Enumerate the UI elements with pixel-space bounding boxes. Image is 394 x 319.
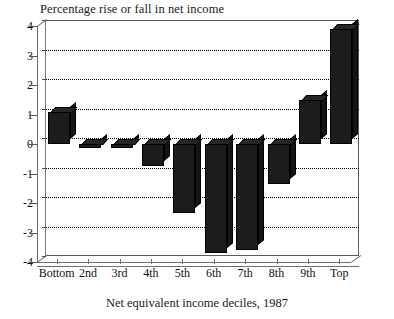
bar-side-face [352, 19, 358, 139]
y-axis-tick-mark-inner [42, 256, 46, 257]
bar-side-face [258, 134, 264, 245]
x-axis-tick-mark [339, 259, 340, 264]
y-axis-tick-mark [29, 262, 37, 263]
bar-front-face [79, 144, 101, 148]
y-axis-tick-mark-inner [42, 109, 46, 110]
bar-front-face [173, 144, 195, 213]
bar-front-face [48, 112, 70, 144]
bar-front-face [142, 144, 164, 166]
x-axis-tick-mark [277, 259, 278, 264]
y-axis-tick-mark [29, 174, 37, 175]
x-axis-tick-mark [120, 259, 121, 264]
gridline [45, 79, 359, 80]
y-axis-tick-mark-inner [42, 197, 46, 198]
plot-area [37, 26, 359, 262]
chart-title: Percentage rise or fall in net income [40, 2, 224, 17]
y-axis-tick-mark [29, 85, 37, 86]
bar-front-face [111, 144, 133, 148]
y-axis-tick-mark [29, 203, 37, 204]
x-axis-tick-mark [308, 259, 309, 264]
y-axis-tick-mark [29, 26, 37, 27]
y-axis-tick-mark [29, 56, 37, 57]
axis-depth-edge-bottom-right [351, 255, 361, 263]
y-axis-tick-mark [29, 115, 37, 116]
bar-front-face [299, 100, 321, 144]
y-axis-line [37, 26, 38, 262]
bar-side-face [227, 134, 233, 248]
chart-container: Percentage rise or fall in net income 43… [0, 0, 394, 319]
y-axis-tick-mark [29, 233, 37, 234]
bar-side-face [195, 134, 201, 208]
gridline [45, 197, 359, 198]
x-axis-tick-mark [151, 259, 152, 264]
x-axis-tick-mark [214, 259, 215, 264]
x-axis-tick-mark [88, 259, 89, 264]
x-axis-tick-mark [57, 259, 58, 264]
y-axis-tick-mark-inner [42, 227, 46, 228]
x-axis-tick-label: Top [309, 266, 369, 281]
bar-front-face [330, 29, 352, 144]
y-axis-tick-mark-inner [42, 50, 46, 51]
bar-front-face [205, 144, 227, 253]
y-axis-tick-mark-inner [42, 138, 46, 139]
bar-front-face [236, 144, 258, 250]
x-axis-title: Net equivalent income deciles, 1987 [0, 296, 394, 311]
y-axis-tick-mark-inner [42, 79, 46, 80]
y-axis-tick-mark [29, 144, 37, 145]
y-axis-tick-mark-inner [42, 20, 46, 21]
gridline [45, 50, 359, 51]
y-axis-tick-mark-inner [42, 168, 46, 169]
x-axis-line-front [37, 262, 351, 263]
gridline [45, 227, 359, 228]
bar-front-face [268, 144, 290, 184]
x-axis-tick-mark [245, 259, 246, 264]
x-axis-tick-mark [182, 259, 183, 264]
gridline [45, 168, 359, 169]
